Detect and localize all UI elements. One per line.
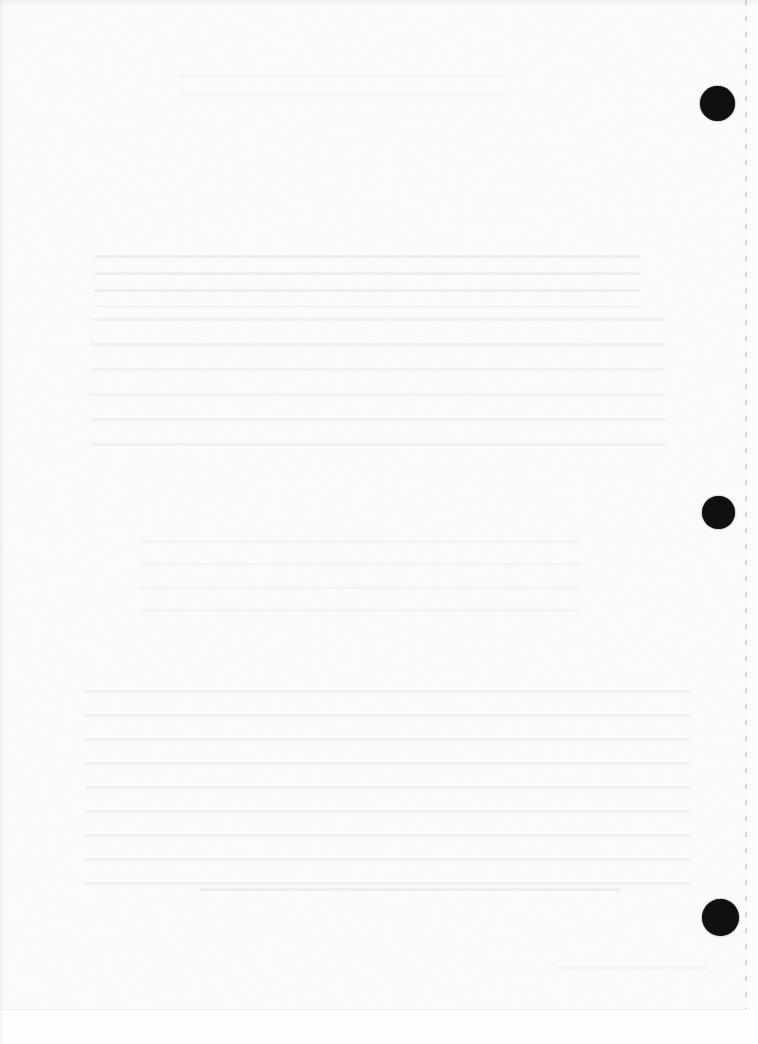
page-bottom-edge (0, 1009, 758, 1044)
ghost-text-band (200, 888, 620, 908)
punch-hole (702, 899, 739, 936)
ghost-text-band (180, 75, 510, 113)
scanned-page (0, 0, 758, 1044)
perforation-dash-line (745, 0, 747, 1044)
ghost-text-band (140, 540, 580, 632)
punch-hole (702, 496, 735, 529)
ghost-text-band (85, 690, 690, 905)
ghost-text-band (558, 966, 708, 990)
punch-holes-layer (0, 0, 758, 1044)
punch-hole (700, 86, 735, 121)
bleedthrough-ghost-text-layer (0, 0, 758, 1044)
paper-noise-texture (0, 0, 758, 1044)
ghost-text-band (90, 318, 665, 468)
ghost-text-band (95, 255, 640, 307)
